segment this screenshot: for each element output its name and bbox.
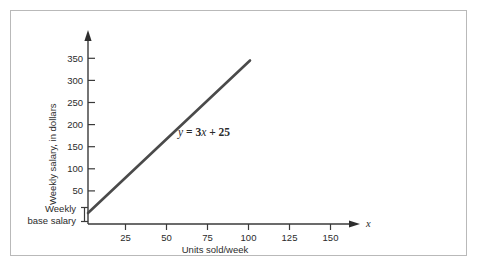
- x-axis-arrowhead: [349, 221, 360, 228]
- x-tick-label-50: 50: [161, 232, 172, 243]
- x-tick-label-75: 75: [202, 232, 213, 243]
- x-tick-label-25: 25: [120, 232, 131, 243]
- y-tick-label-100: 100: [67, 163, 83, 174]
- x-tick-label-150: 150: [323, 232, 339, 243]
- equation-annotation: y = 3x + 25: [177, 126, 230, 139]
- x-axis-title: Units sold/week: [182, 244, 249, 255]
- y-axis-title: Weekly salary, in dollars: [47, 103, 58, 205]
- y-axis-arrowhead: [84, 30, 91, 41]
- y-tick-label-200: 200: [67, 119, 83, 130]
- y-tick-label-250: 250: [67, 97, 83, 108]
- x-tick-label-125: 125: [282, 232, 298, 243]
- y-tick-label-50: 50: [72, 185, 83, 196]
- equation-intercept: 25: [219, 126, 231, 138]
- base-salary-callout-line2: base salary: [27, 215, 76, 226]
- y-tick-label-300: 300: [67, 75, 83, 86]
- x-tick-label-100: 100: [241, 232, 257, 243]
- chart-svg: 350 300 250 200 150 100 50 25 50 75 100 …: [0, 0, 484, 272]
- x-axis-variable-label: x: [365, 218, 371, 229]
- figure-canvas: 350 300 250 200 150 100 50 25 50 75 100 …: [0, 0, 484, 272]
- y-tick-label-150: 150: [67, 141, 83, 152]
- y-tick-label-350: 350: [67, 53, 83, 64]
